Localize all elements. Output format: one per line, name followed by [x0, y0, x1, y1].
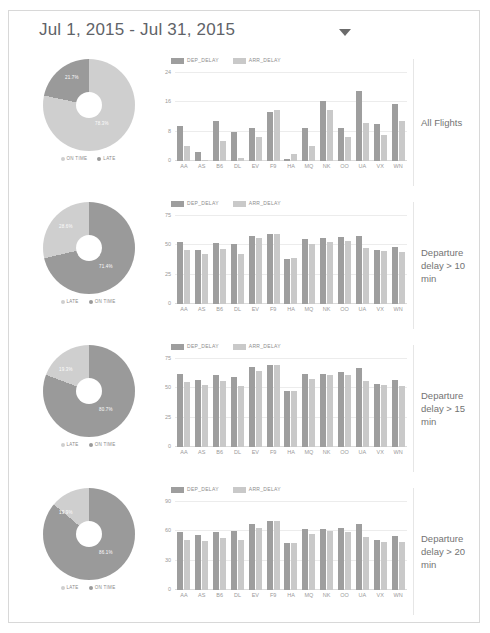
- bar-legend-item[interactable]: DEP_DELAY: [171, 57, 219, 64]
- bar-arr-delay[interactable]: [381, 251, 387, 304]
- bar-arr-delay[interactable]: [399, 252, 405, 304]
- bar-dep-delay[interactable]: [213, 375, 219, 447]
- bar-legend-item[interactable]: ARR_DELAY: [233, 57, 281, 64]
- bar-dep-delay[interactable]: [195, 535, 201, 590]
- bar-group[interactable]: [389, 216, 407, 304]
- bar-legend-item[interactable]: ARR_DELAY: [233, 486, 281, 493]
- bar-arr-delay[interactable]: [399, 121, 405, 161]
- bar-arr-delay[interactable]: [274, 234, 280, 304]
- bar-dep-delay[interactable]: [267, 521, 273, 590]
- bar-dep-delay[interactable]: [392, 380, 398, 447]
- bar-dep-delay[interactable]: [374, 250, 380, 304]
- bar-arr-delay[interactable]: [381, 542, 387, 590]
- bar-dep-delay[interactable]: [356, 524, 362, 590]
- bar-group[interactable]: [300, 73, 318, 161]
- bar-arr-delay[interactable]: [363, 248, 369, 304]
- bar-arr-delay[interactable]: [381, 135, 387, 161]
- bar-arr-delay[interactable]: [274, 365, 280, 447]
- bar-dep-delay[interactable]: [284, 543, 290, 590]
- pie-legend-item[interactable]: LATE: [61, 442, 79, 447]
- bar-arr-delay[interactable]: [256, 371, 262, 447]
- bar-arr-delay[interactable]: [363, 381, 369, 447]
- bar-arr-delay[interactable]: [363, 123, 369, 162]
- bar-dep-delay[interactable]: [338, 237, 344, 304]
- bar-dep-delay[interactable]: [231, 377, 237, 447]
- bar-dep-delay[interactable]: [338, 372, 344, 447]
- bar-legend-item[interactable]: ARR_DELAY: [233, 343, 281, 350]
- bar-group[interactable]: [246, 502, 264, 590]
- bar-group[interactable]: [175, 73, 193, 161]
- bar-group[interactable]: [175, 216, 193, 304]
- bar-dep-delay[interactable]: [284, 159, 290, 161]
- bar-dep-delay[interactable]: [374, 124, 380, 161]
- bar-group[interactable]: [300, 216, 318, 304]
- bar-dep-delay[interactable]: [231, 132, 237, 161]
- bar-group[interactable]: [353, 359, 371, 447]
- bar-group[interactable]: [264, 359, 282, 447]
- bar-arr-delay[interactable]: [309, 379, 315, 447]
- bar-group[interactable]: [389, 359, 407, 447]
- bar-group[interactable]: [336, 359, 354, 447]
- bar-dep-delay[interactable]: [195, 380, 201, 447]
- bar-group[interactable]: [371, 216, 389, 304]
- bar-dep-delay[interactable]: [356, 91, 362, 161]
- bar-group[interactable]: [371, 502, 389, 590]
- bar-arr-delay[interactable]: [202, 385, 208, 447]
- bar-arr-delay[interactable]: [291, 391, 297, 447]
- bar-group[interactable]: [300, 359, 318, 447]
- bar-dep-delay[interactable]: [267, 234, 273, 304]
- bar-dep-delay[interactable]: [338, 128, 344, 161]
- bar-dep-delay[interactable]: [177, 532, 183, 590]
- bar-dep-delay[interactable]: [231, 244, 237, 304]
- bar-group[interactable]: [389, 502, 407, 590]
- bar-group[interactable]: [318, 502, 336, 590]
- bar-group[interactable]: [282, 359, 300, 447]
- pie-legend-item[interactable]: ON TIME: [61, 156, 88, 161]
- bar-group[interactable]: [211, 502, 229, 590]
- bar-group[interactable]: [336, 216, 354, 304]
- bar-arr-delay[interactable]: [327, 110, 333, 161]
- bar-group[interactable]: [229, 359, 247, 447]
- bar-arr-delay[interactable]: [184, 382, 190, 447]
- bar-group[interactable]: [211, 73, 229, 161]
- bar-arr-delay[interactable]: [202, 541, 208, 590]
- bar-legend-item[interactable]: DEP_DELAY: [171, 486, 219, 493]
- bar-arr-delay[interactable]: [238, 158, 244, 161]
- pie-legend-item[interactable]: ON TIME: [89, 299, 116, 304]
- bar-dep-delay[interactable]: [356, 368, 362, 447]
- pie-legend-item[interactable]: LATE: [97, 156, 115, 161]
- bar-arr-delay[interactable]: [309, 244, 315, 304]
- bar-arr-delay[interactable]: [184, 540, 190, 590]
- bar-group[interactable]: [193, 216, 211, 304]
- bar-dep-delay[interactable]: [213, 532, 219, 590]
- bar-dep-delay[interactable]: [177, 242, 183, 304]
- bar-dep-delay[interactable]: [338, 528, 344, 590]
- bar-dep-delay[interactable]: [302, 239, 308, 304]
- bar-dep-delay[interactable]: [320, 101, 326, 162]
- bar-dep-delay[interactable]: [213, 121, 219, 161]
- bar-arr-delay[interactable]: [238, 540, 244, 590]
- pie-legend-item[interactable]: ON TIME: [89, 442, 116, 447]
- bar-arr-delay[interactable]: [184, 250, 190, 304]
- bar-arr-delay[interactable]: [274, 521, 280, 590]
- bar-group[interactable]: [318, 73, 336, 161]
- bar-dep-delay[interactable]: [392, 104, 398, 161]
- bar-group[interactable]: [264, 216, 282, 304]
- bar-group[interactable]: [193, 359, 211, 447]
- bar-arr-delay[interactable]: [274, 110, 280, 161]
- bar-group[interactable]: [282, 216, 300, 304]
- bar-dep-delay[interactable]: [249, 367, 255, 447]
- bar-group[interactable]: [353, 216, 371, 304]
- bar-arr-delay[interactable]: [363, 537, 369, 590]
- bar-dep-delay[interactable]: [320, 238, 326, 304]
- bar-dep-delay[interactable]: [374, 384, 380, 447]
- bar-arr-delay[interactable]: [220, 538, 226, 590]
- bar-dep-delay[interactable]: [320, 374, 326, 447]
- bar-dep-delay[interactable]: [302, 529, 308, 590]
- donut-chart[interactable]: 28.6%71.4%: [43, 202, 135, 294]
- bar-arr-delay[interactable]: [399, 386, 405, 447]
- bar-group[interactable]: [353, 502, 371, 590]
- bar-arr-delay[interactable]: [256, 238, 262, 304]
- donut-chart[interactable]: 13.9%86.1%: [43, 488, 135, 580]
- bar-arr-delay[interactable]: [202, 254, 208, 304]
